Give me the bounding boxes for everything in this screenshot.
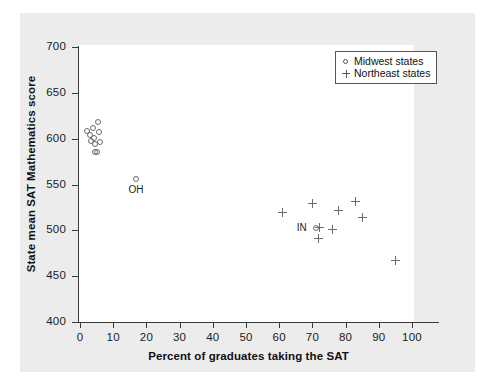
y-tick (72, 93, 78, 94)
point-label-oh: OH (128, 184, 143, 195)
data-point (91, 135, 97, 141)
y-tick (72, 185, 78, 186)
y-tick (72, 322, 78, 323)
point-label-in: IN (297, 222, 307, 233)
x-tick (379, 322, 380, 328)
data-point (314, 234, 323, 243)
data-point (334, 206, 343, 215)
data-point (391, 256, 400, 265)
x-tick-label: 100 (392, 331, 432, 343)
data-point (358, 213, 367, 222)
data-point (315, 223, 324, 232)
x-tick (346, 322, 347, 328)
x-tick (279, 322, 280, 328)
data-point (278, 208, 287, 217)
x-tick (113, 322, 114, 328)
legend-label-midwest: Midwest states (354, 55, 423, 67)
chart-figure: 400450500550600650700 010203040506070809… (0, 0, 497, 389)
data-point (308, 199, 317, 208)
x-tick (180, 322, 181, 328)
y-axis-label: State mean SAT Mathematics score (25, 49, 37, 299)
x-tick (80, 322, 81, 328)
x-tick (146, 322, 147, 328)
y-tick (72, 139, 78, 140)
x-axis-label: Percent of graduates taking the SAT (0, 350, 497, 362)
data-point (96, 129, 102, 135)
y-axis-line (78, 46, 79, 323)
x-axis-line (78, 322, 439, 323)
legend-item-northeast: Northeast states (341, 67, 430, 79)
x-tick (213, 322, 214, 328)
chart-legend: Midwest states Northeast states (335, 51, 437, 84)
y-tick (72, 276, 78, 277)
y-tick-label: 400 (28, 315, 66, 327)
x-tick (246, 322, 247, 328)
legend-label-northeast: Northeast states (354, 67, 430, 79)
data-point (328, 225, 337, 234)
plus-marker-icon (341, 68, 352, 79)
circle-marker-icon (341, 56, 352, 67)
data-point (351, 197, 360, 206)
legend-item-midwest: Midwest states (341, 55, 430, 67)
x-tick (312, 322, 313, 328)
y-tick (72, 47, 78, 48)
x-tick (412, 322, 413, 328)
y-tick (72, 230, 78, 231)
